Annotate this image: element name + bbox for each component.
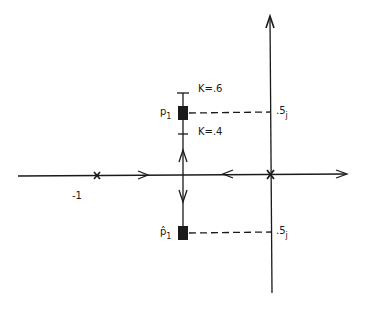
imaginary-axis [270, 17, 272, 293]
imag-unit: j [286, 231, 288, 240]
real-axis [18, 174, 346, 176]
imag-label-upper: .5j [276, 106, 288, 116]
imag-value: .5 [276, 225, 286, 236]
closed-loop-pole-upper [178, 106, 188, 120]
pole-label-p1: p1 [160, 107, 171, 117]
imag-value: .5 [276, 105, 286, 116]
pole-label-p1-hat: p̂1 [160, 227, 171, 237]
imag-unit: j [286, 111, 288, 120]
pole-subscript: 1 [166, 112, 171, 121]
root-locus-diagram [0, 0, 365, 310]
gain-label-upper: K=.6 [198, 84, 222, 94]
imag-label-lower: .5j [276, 226, 288, 236]
closed-loop-pole-lower [178, 226, 188, 240]
real-axis-label-minus-one: -1 [72, 191, 82, 201]
pole-subscript: 1 [166, 232, 171, 241]
locus-arrow-left [223, 170, 233, 178]
dashed-line-lower [189, 232, 271, 233]
dashed-line-upper [189, 112, 270, 113]
gain-label-lower: K=.4 [198, 127, 222, 137]
